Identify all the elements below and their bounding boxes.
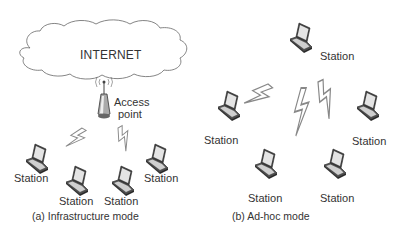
station-label: Station [320,50,354,62]
wireless-link-icon [113,124,136,151]
laptop-icon [255,149,277,179]
laptop-icon [66,166,88,196]
wireless-link-icon [312,78,342,119]
access-point-label: Access [114,96,149,108]
laptop-icon [112,166,134,196]
wireless-link-icon [65,125,88,152]
laptop-icon [146,144,168,174]
wireless-link-icon [295,88,309,136]
internet-label: INTERNET [80,48,142,62]
laptop-icon [290,23,312,53]
station-label: Station [204,134,238,146]
station-label: Station [320,192,354,204]
station-label: Station [352,135,386,147]
station-label: Station [144,172,178,184]
adhoc-caption: (b) Ad-hoc mode [232,210,310,222]
station-label: Station [104,195,138,207]
station-label: Station [14,172,48,184]
access-point-icon [96,77,113,119]
infrastructure-caption: (a) Infrastructure mode [32,210,139,222]
laptop-icon [357,91,379,121]
station-label: Station [59,195,93,207]
access-point-label: point [118,108,142,120]
laptop-icon [26,144,48,174]
wireless-link-icon [243,79,275,113]
laptop-icon [324,149,346,179]
station-label: Station [248,192,282,204]
laptop-icon [218,91,240,121]
